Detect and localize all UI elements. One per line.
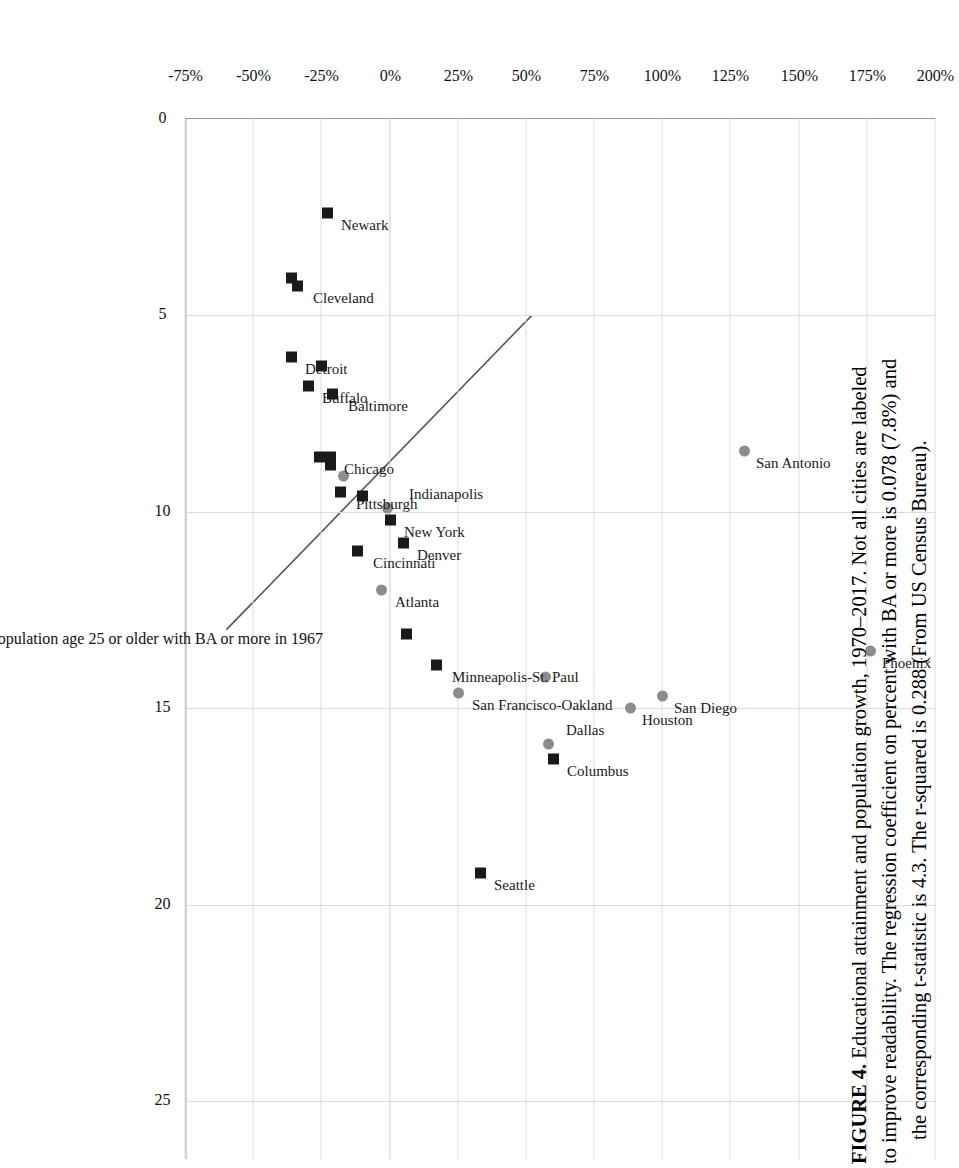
y-tick-label: -50% [223,67,283,85]
data-point-houston [624,703,635,714]
gridline-horizontal [389,119,390,1159]
point-label-columbus: Columbus [567,763,629,780]
point-label-dallas: Dallas [565,721,603,738]
data-point-minneapolis-st-paul [430,660,441,671]
point-label-houston: Houston [641,712,692,729]
x-tick-label: 15 [152,698,172,716]
data-point-dallas [542,738,553,749]
point-label-san-antonio: San Antonio [756,454,831,471]
data-point [313,451,324,462]
point-label-san-francisco-oakland: San Francisco-Oakland [471,696,611,713]
gridline-horizontal [525,119,526,1159]
point-label-minneapolis-st-paul: Minneapolis-St. Paul [451,669,578,686]
y-tick-label: 125% [700,67,760,85]
caption-line-1: Educational attainment and population gr… [848,366,870,1058]
data-point-chicago [324,451,335,462]
point-label-detroit: Detroit [305,360,348,377]
data-point-san-diego [657,691,668,702]
gridline-horizontal [798,119,799,1159]
y-tick-label: 150% [769,67,829,85]
data-point [286,273,297,284]
data-point-newark [321,208,332,219]
caption-line-3: the corresponding t-statistic is 4.3. Th… [908,440,930,1140]
x-tick-label: 25 [152,1091,172,1109]
y-tick-label: 0% [360,67,420,85]
data-point-new-york [384,514,395,525]
data-point-san-francisco-oakland [452,687,463,698]
x-tick-label: 5 [152,305,172,323]
x-tick-label: 10 [152,502,172,520]
data-point-buffalo [302,381,313,392]
point-label-indianapolis: Indianapolis [408,485,482,502]
data-point-columbus [548,754,559,765]
data-point-pittsburgh [335,487,346,498]
point-label-pittsburgh: Pittsburgh [356,496,417,513]
data-point-cincinnati [351,546,362,557]
gridline-horizontal [457,119,458,1159]
point-label-chicago: Chicago [343,460,393,477]
gridline-horizontal [593,119,594,1159]
point-label-buffalo: Buffalo [321,390,367,407]
y-tick-label: 100% [632,67,692,85]
point-label-newark: Newark [340,217,387,234]
gridline-horizontal [729,119,730,1159]
x-tick-label: 20 [152,895,172,913]
y-tick-label: 50% [496,67,556,85]
gridline-horizontal [661,119,662,1159]
point-label-cleveland: Cleveland [312,289,373,306]
x-tick-label: 0 [152,109,172,127]
data-point-detroit [286,351,297,362]
data-point-seattle [474,868,485,879]
y-tick-label: 25% [428,67,488,85]
y-tick-label: -25% [291,67,351,85]
figure-caption: FIGURE 4. Educational attainment and pop… [823,0,941,1168]
point-label-cincinnati: Cincinnati [372,555,435,572]
data-point [400,628,411,639]
y-tick-label: 75% [564,67,624,85]
x-axis-title: Percent of population age 25 or older wi… [0,630,320,648]
y-tick-label: -75% [155,67,215,85]
data-point-san-antonio [739,445,750,456]
caption-line-2: to improve readability. The regression c… [878,359,900,1164]
point-label-atlanta: Atlanta [395,594,439,611]
point-label-new-york: New York [403,523,464,540]
data-point-atlanta [376,585,387,596]
caption-label: FIGURE 4. [848,1064,870,1164]
point-label-seattle: Seattle [493,877,534,894]
